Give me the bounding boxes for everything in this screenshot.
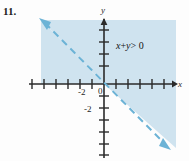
y-axis-tick-label-negative-two: -2	[84, 104, 92, 114]
inequality-relation-sign: >	[131, 40, 137, 51]
figure-container: 11.	[0, 0, 189, 161]
inequality-annotation: x+y> 0	[116, 40, 144, 51]
inequality-right-value: 0	[139, 40, 144, 51]
y-axis-label: y	[101, 5, 105, 15]
coordinate-plane-graph	[0, 0, 189, 161]
origin-label: 0	[98, 86, 103, 96]
x-axis-tick-label-negative-two: -2	[78, 87, 86, 97]
x-axis-label: x	[178, 79, 182, 89]
